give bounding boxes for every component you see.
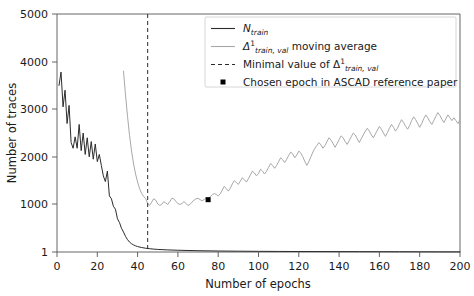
x-axis-ticks (57, 252, 460, 257)
y-axis-ticks (52, 14, 57, 252)
x-ticklabel-10: 200 (450, 260, 471, 273)
legend-item-chosen-epoch[interactable]: Chosen epoch in ASCAD reference paper (221, 76, 459, 88)
x-axis-ticklabels: 0 20 40 60 80 100 120 140 160 180 200 (54, 260, 471, 273)
y-axis-label: Number of traces (5, 83, 19, 183)
x-ticklabel-3: 60 (171, 260, 185, 273)
legend-label-movavg-sub: train, val (255, 46, 289, 55)
x-ticklabel-4: 80 (211, 260, 225, 273)
x-ticklabel-5: 100 (248, 260, 269, 273)
plot-canvas: 1 1000 2000 3000 4000 5000 0 20 40 60 (0, 0, 474, 296)
legend-label-chosen-epoch: Chosen epoch in ASCAD reference paper (243, 76, 458, 88)
x-axis-label: Number of epochs (205, 277, 311, 291)
x-ticklabel-0: 0 (54, 260, 61, 273)
y-ticklabel-2: 2000 (20, 151, 48, 164)
legend-label-movavg-main: Δ (242, 40, 250, 52)
y-ticklabel-3: 3000 (20, 103, 48, 116)
x-ticklabel-1: 20 (90, 260, 104, 273)
chosen-epoch-marker (206, 197, 211, 202)
legend: Ntrain Δ1train, val moving average Minim… (205, 17, 458, 88)
y-axis-ticklabels: 1 1000 2000 3000 4000 5000 (20, 8, 48, 259)
x-ticklabel-6: 120 (288, 260, 309, 273)
legend-label-minval-sub: train, val (345, 64, 379, 73)
y-ticklabel-1: 1000 (20, 198, 48, 211)
legend-label-ntrain-main: N (243, 22, 251, 34)
legend-swatch-square-marker (221, 80, 226, 85)
y-ticklabel-0: 1 (41, 246, 48, 259)
y-ticklabel-4: 4000 (20, 56, 48, 69)
chart-figure: 1 1000 2000 3000 4000 5000 0 20 40 60 (0, 0, 474, 296)
legend-label-movavg-tail: moving average (288, 40, 377, 52)
legend-label-ntrain-sub: train (251, 28, 269, 37)
x-ticklabel-7: 140 (329, 260, 350, 273)
y-ticklabel-5: 5000 (20, 8, 48, 21)
x-ticklabel-2: 40 (131, 260, 145, 273)
x-ticklabel-9: 180 (409, 260, 430, 273)
legend-label-minval-main: Minimal value of Δ (243, 58, 341, 70)
x-ticklabel-8: 160 (369, 260, 390, 273)
